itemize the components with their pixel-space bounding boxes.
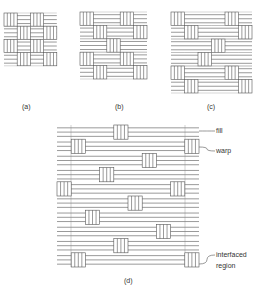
caption-b: (b) — [115, 103, 124, 110]
label-interfaced: interfaced — [216, 251, 247, 258]
caption-c: (c) — [207, 103, 215, 110]
caption-a: (a) — [22, 103, 31, 110]
leader-line-interfaced — [199, 255, 215, 264]
label-fill: fill — [216, 127, 223, 134]
leader-line-warp — [199, 147, 215, 151]
weave-drawing — [0, 0, 264, 290]
label-warp: warp — [216, 147, 231, 154]
label-region: region — [216, 262, 235, 269]
caption-d: (d) — [124, 277, 133, 284]
